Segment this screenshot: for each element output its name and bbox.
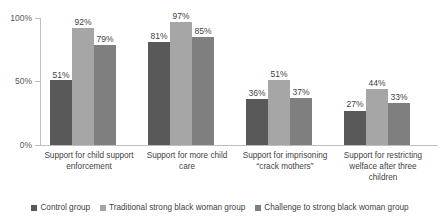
plot-area: 51% 92% 79% 81% [40, 14, 438, 145]
category-label-line: Support for imprisoning [229, 150, 341, 161]
category-label-line: Support for child support [32, 150, 146, 161]
category-label-line: Support for more child [131, 150, 243, 161]
category-label-line: care [131, 161, 243, 172]
legend-label: Challenge to strong black woman group [264, 203, 408, 212]
chart-legend: Control group Traditional strong black w… [0, 203, 440, 212]
y-tick-label-100: 100% [0, 14, 32, 23]
x-axis-line [40, 145, 438, 146]
bar-rect [148, 42, 170, 145]
bar-rect [72, 28, 94, 145]
bar-control-group-1[interactable]: 81% [148, 14, 170, 145]
bar-value-label: 79% [88, 35, 122, 44]
bar-challenge-group-1[interactable]: 85% [192, 14, 214, 145]
bar-rect [344, 111, 366, 145]
bar-group-restricting-welfare: 27% 44% 33% [340, 14, 414, 145]
bar-challenge-group-3[interactable]: 33% [388, 14, 410, 145]
bar-challenge-group-2[interactable]: 37% [290, 14, 312, 145]
category-label-line: welface after three [329, 161, 437, 172]
bar-value-label: 37% [284, 88, 318, 97]
legend-item-control-group[interactable]: Control group [31, 203, 90, 212]
category-label-line: Support for restricting [329, 150, 437, 161]
y-tick-mark-0 [35, 145, 40, 146]
bar-control-group-0[interactable]: 51% [50, 14, 72, 145]
legend-item-challenge-to-strong-black-woman-group[interactable]: Challenge to strong black woman group [255, 203, 408, 212]
legend-swatch-icon [100, 205, 106, 211]
bar-rect [388, 103, 410, 145]
category-label-0: Support for child support enforcement [32, 150, 146, 172]
bar-rect [170, 22, 192, 145]
bar-challenge-group-0[interactable]: 79% [94, 14, 116, 145]
legend-label: Control group [40, 203, 90, 212]
category-label-2: Support for imprisoning “crack mothers” [229, 150, 341, 172]
legend-label: Traditional strong black woman group [109, 203, 245, 212]
bar-rect [50, 80, 72, 145]
bar-value-label: 85% [186, 27, 220, 36]
bar-value-label: 33% [382, 93, 416, 102]
bar-rect [192, 37, 214, 145]
bar-rect [290, 98, 312, 145]
y-tick-label-50: 50% [0, 77, 32, 86]
y-tick-label-0: 0% [0, 141, 32, 150]
legend-swatch-icon [255, 205, 261, 211]
bar-traditional-group-3[interactable]: 44% [366, 14, 388, 145]
bar-group-imprisoning-crack-mothers: 36% 51% 37% [242, 14, 316, 145]
bar-control-group-2[interactable]: 36% [246, 14, 268, 145]
bar-group-child-support-enforcement: 51% 92% 79% [46, 14, 120, 145]
category-label-line: children [329, 172, 437, 183]
legend-item-traditional-strong-black-woman-group[interactable]: Traditional strong black woman group [100, 203, 245, 212]
bar-group-more-child-care: 81% 97% 85% [144, 14, 218, 145]
category-label-line: “crack mothers” [229, 161, 341, 172]
category-label-line: enforcement [32, 161, 146, 172]
category-label-1: Support for more child care [131, 150, 243, 172]
category-label-3: Support for restricting welface after th… [329, 150, 437, 183]
bar-rect [94, 45, 116, 145]
bar-rect [246, 99, 268, 145]
bar-traditional-group-2[interactable]: 51% [268, 14, 290, 145]
bar-chart: 100% 50% 0% 51% 92% 79% [0, 0, 440, 220]
legend-swatch-icon [31, 205, 37, 211]
